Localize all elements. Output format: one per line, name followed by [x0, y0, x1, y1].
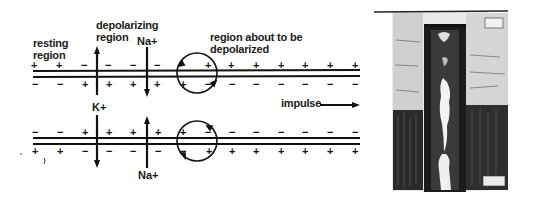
svg-text:+: + [253, 145, 259, 157]
svg-text:−: − [105, 59, 111, 71]
svg-text:+: + [57, 145, 63, 157]
svg-text:−: − [352, 126, 358, 138]
svg-text:−: − [229, 78, 235, 90]
svg-text:+: + [228, 59, 234, 71]
svg-text:+: + [106, 78, 112, 90]
svg-text:+: + [278, 145, 284, 157]
svg-text:−: − [57, 126, 63, 138]
svg-text:+: + [155, 126, 161, 138]
svg-text:−: − [32, 78, 38, 90]
svg-text:−: − [327, 78, 333, 90]
svg-text:+: + [327, 145, 333, 157]
svg-text:+: + [229, 145, 235, 157]
svg-text:+: + [205, 59, 211, 71]
svg-text:−: − [229, 126, 235, 138]
svg-text:−: − [278, 126, 284, 138]
svg-text:+: + [32, 145, 38, 157]
top-membrane [33, 70, 360, 77]
svg-text:−: − [130, 59, 136, 71]
svg-text:+: + [106, 126, 112, 138]
svg-text:−: − [302, 126, 308, 138]
svg-text:+: + [31, 59, 37, 71]
membrane-diagram: + + − − − − − + + + + + + + − − + + + + … [0, 0, 544, 201]
top-inner-signs: − − + + + + + − − − − − − − [32, 78, 358, 90]
svg-text:+: + [302, 145, 308, 157]
svg-text:−: − [154, 59, 160, 71]
svg-text:+: + [302, 59, 308, 71]
svg-text:+: + [154, 78, 160, 90]
svg-text:−: − [57, 78, 63, 90]
bottom-inner-signs: − − + + + + + − − − − − − − [32, 126, 358, 138]
svg-text:+: + [278, 59, 284, 71]
svg-text:−: − [302, 78, 308, 90]
svg-text:−: − [155, 145, 161, 157]
svg-text:+: + [82, 126, 88, 138]
local-current-loop-bottom [177, 121, 217, 161]
svg-text:−: − [327, 126, 333, 138]
svg-text:−: − [32, 126, 38, 138]
svg-text:+: + [130, 126, 136, 138]
local-current-loop-top [177, 53, 217, 93]
svg-text:−: − [278, 78, 284, 90]
svg-text:−: − [130, 145, 136, 157]
svg-text:−: − [352, 78, 358, 90]
svg-text:−: − [253, 126, 259, 138]
svg-text:+: + [253, 59, 259, 71]
bottom-outer-signs: + + − − − − − + + + + + + + [32, 145, 358, 157]
svg-text:−: − [81, 59, 87, 71]
bottom-membrane [33, 138, 360, 144]
svg-text:+: + [82, 78, 88, 90]
svg-text:+: + [130, 78, 136, 90]
svg-text:−: − [106, 145, 112, 157]
svg-text:+: + [352, 145, 358, 157]
svg-text:−: − [82, 145, 88, 157]
svg-text:+: + [327, 59, 333, 71]
svg-text:+: + [352, 59, 358, 71]
svg-text:+: + [56, 59, 62, 71]
shaft-sketch-illustration [374, 11, 508, 192]
svg-text:−: − [253, 78, 259, 90]
